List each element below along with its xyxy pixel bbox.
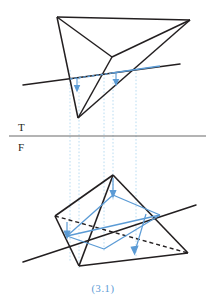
tetra-edge-bd [112, 20, 190, 57]
front-view-projection-arrows [64, 178, 146, 254]
tetra-edge-ad [57, 17, 112, 57]
geometry-figure: T F [0, 0, 206, 305]
section-edge [113, 195, 160, 215]
figure-caption: (3.1) [91, 283, 114, 295]
front-view-label: F [18, 141, 25, 153]
projection-arrow-head [75, 86, 80, 92]
tetra-edge-cd [79, 253, 188, 266]
tetra-edge-ad [113, 175, 188, 253]
tetra-edge-ac [57, 17, 78, 118]
tetra-edge-ab [55, 175, 113, 216]
tetra-edge-bc [78, 20, 190, 118]
front-view-tetrahedron [55, 175, 188, 266]
top-view-label: T [18, 121, 25, 133]
tetra-edge-ab [57, 17, 190, 20]
top-view-group [23, 17, 190, 118]
descriptive-geometry-diagram: T F [0, 0, 206, 305]
projection-arrow-head [131, 246, 137, 254]
top-view-tetrahedron [57, 17, 190, 118]
tetra-edge-cd [78, 57, 112, 118]
front-view-group [23, 175, 196, 266]
vertical-projector-lines [70, 69, 136, 268]
